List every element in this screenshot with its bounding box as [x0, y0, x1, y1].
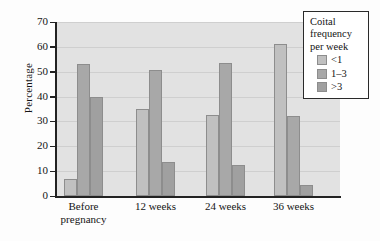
- bar: [287, 116, 300, 196]
- bar: [206, 115, 219, 196]
- bar: [274, 44, 287, 196]
- bar: [162, 162, 175, 196]
- legend-swatch-icon: [317, 55, 327, 65]
- bar: [77, 64, 90, 196]
- legend-label: 1–3: [331, 68, 347, 80]
- bar: [64, 179, 77, 196]
- legend-title-line: Coital: [310, 16, 363, 28]
- bar: [136, 109, 149, 196]
- x-tick-label-line: 36 weeks: [246, 200, 342, 213]
- legend-item: <1: [310, 54, 363, 66]
- legend-item: >3: [310, 81, 363, 93]
- legend-item: 1–3: [310, 68, 363, 80]
- legend-items: <11–3>3: [310, 54, 363, 93]
- bar: [149, 70, 162, 196]
- legend-swatch-icon: [317, 82, 327, 92]
- legend-swatch-icon: [317, 69, 327, 79]
- legend-title: Coitalfrequencyper week: [310, 16, 363, 53]
- bar: [219, 63, 232, 196]
- legend-label: <1: [331, 54, 342, 66]
- bar: [90, 97, 103, 196]
- legend-label: >3: [331, 81, 342, 93]
- legend: Coitalfrequencyper week <11–3>3: [303, 11, 369, 99]
- bar: [300, 185, 313, 196]
- bar: [232, 165, 245, 196]
- x-tick-label-line: pregnancy: [36, 213, 132, 226]
- x-tick-label: 36 weeks: [246, 200, 342, 213]
- legend-title-line: per week: [310, 41, 363, 53]
- bar-chart-figure: Percentage 706050403020100 Beforepregnan…: [0, 0, 380, 241]
- legend-title-line: frequency: [310, 28, 363, 40]
